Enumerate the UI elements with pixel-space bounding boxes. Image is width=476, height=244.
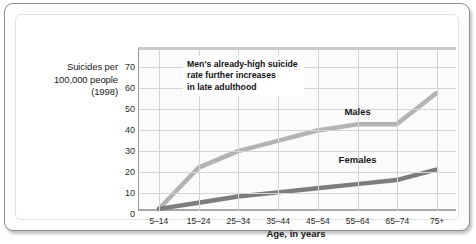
series-line-females: [159, 170, 436, 209]
series-label-males: Males: [344, 105, 370, 116]
gridline-vertical: [318, 50, 319, 211]
y-axis-title-line-1: Suicides per: [22, 61, 118, 74]
y-axis-tick-label: 0: [130, 209, 135, 219]
gridline-vertical: [397, 50, 398, 211]
gridline-vertical: [358, 50, 359, 211]
gridline-horizontal: [139, 130, 456, 131]
plot-wrapper: 0102030405060705–1415–2425–3435–4445–545…: [128, 43, 462, 221]
y-axis-tick-label: 30: [125, 146, 135, 156]
y-axis-title-line-2: 100,000 people: [22, 74, 118, 87]
y-axis-title-line-3: (1998): [22, 86, 118, 99]
figure-frame: Suicides per 100,000 people (1998) 01020…: [4, 3, 470, 231]
y-axis-tick-label: 70: [125, 62, 135, 72]
x-axis-tick-label: 15–24: [187, 216, 211, 226]
figure-inner-card: Suicides per 100,000 people (1998) 01020…: [15, 14, 459, 220]
y-axis-tick-label: 50: [125, 104, 135, 114]
plot-area: 0102030405060705–1415–2425–3435–4445–545…: [138, 47, 456, 211]
y-axis-tick-label: 60: [125, 83, 135, 93]
y-axis-tick-label: 10: [125, 188, 135, 198]
y-axis-title: Suicides per 100,000 people (1998): [22, 61, 118, 99]
chart-annotation-line: in late adulthood: [187, 82, 298, 93]
x-axis-title: Age, in years: [136, 228, 456, 239]
x-axis-tick-label: 25–34: [227, 216, 251, 226]
series-label-females: Females: [339, 154, 377, 165]
y-axis-tick-label: 40: [125, 125, 135, 135]
chart-annotation-line: rate further increases: [187, 70, 298, 81]
gridline-vertical: [159, 50, 160, 211]
x-axis-tick-label: 75+: [430, 216, 444, 226]
gridline-horizontal: [139, 193, 456, 194]
y-axis-tick-label: 20: [125, 167, 135, 177]
gridline-horizontal: [139, 109, 456, 110]
x-axis-tick-label: 35–44: [266, 216, 290, 226]
x-axis-tick-label: 5–14: [149, 216, 168, 226]
gridline-horizontal: [139, 172, 456, 173]
chart-annotation-line: Men's already-high suicide: [187, 59, 298, 70]
x-axis-tick-label: 45–54: [306, 216, 330, 226]
chart-annotation: Men's already-high suiciderate further i…: [183, 56, 304, 96]
x-axis-tick-label: 55–64: [346, 216, 370, 226]
x-axis-tick-label: 65–74: [386, 216, 410, 226]
gridline-vertical: [437, 50, 438, 211]
gridline-horizontal: [139, 151, 456, 152]
